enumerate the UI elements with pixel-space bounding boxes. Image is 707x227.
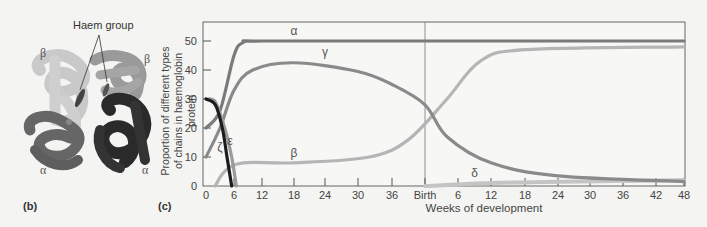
x-tick-label: 24 xyxy=(552,189,564,201)
y-tick-label: 20 xyxy=(185,122,197,134)
x-tick-label: 18 xyxy=(288,189,300,201)
y-tick-label: 30 xyxy=(185,93,197,105)
y-tick-label: 50 xyxy=(185,35,197,47)
series-label: α xyxy=(291,24,298,38)
y-tick-label: 0 xyxy=(191,180,197,192)
x-tick-label: 12 xyxy=(485,189,497,201)
x-tick-label: 12 xyxy=(256,189,268,201)
y-tick-label: 10 xyxy=(185,151,197,163)
y-tick-label: 40 xyxy=(185,64,197,76)
x-tick-label: 6 xyxy=(231,189,237,201)
series-label: ζ xyxy=(217,140,223,154)
series-label: β xyxy=(291,146,298,160)
x-tick-label: 48 xyxy=(678,189,690,201)
x-tick-label: 0 xyxy=(203,189,209,201)
globin-chain-line-chart: 01020304050061218243036Birth612182430364… xyxy=(0,0,707,227)
x-tick-label: 30 xyxy=(584,189,596,201)
series-label: γ xyxy=(322,45,328,59)
x-axis-label: Weeks of development xyxy=(426,202,544,214)
series-label: δ xyxy=(471,166,478,180)
x-tick-label: 36 xyxy=(386,189,398,201)
series-label: ε xyxy=(228,134,234,148)
x-tick-label: 24 xyxy=(319,189,331,201)
x-tick-label: 6 xyxy=(455,189,461,201)
x-tick-label: 30 xyxy=(352,189,364,201)
x-tick-label: 42 xyxy=(650,189,662,201)
x-tick-label: 36 xyxy=(617,189,629,201)
x-tick-label: Birth xyxy=(414,189,437,201)
x-tick-label: 18 xyxy=(519,189,531,201)
